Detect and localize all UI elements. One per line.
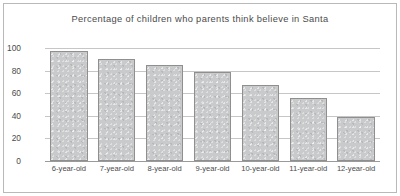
bar-series bbox=[45, 48, 380, 161]
bar-slot bbox=[284, 48, 332, 161]
y-tick-label-40: 40 bbox=[0, 111, 21, 121]
x-tick-label-8-year-old: 8-year-old bbox=[141, 164, 189, 173]
gridline-0 bbox=[45, 161, 380, 162]
y-tick-label-20: 20 bbox=[0, 133, 21, 143]
bar-slot bbox=[45, 48, 93, 161]
chart-figure: Percentage of children who parents think… bbox=[0, 0, 400, 196]
y-tick-label-100: 100 bbox=[0, 43, 21, 53]
x-tick-label-7-year-old: 7-year-old bbox=[93, 164, 141, 173]
bar-6-year-old bbox=[50, 51, 87, 161]
bar-slot bbox=[332, 48, 380, 161]
x-tick-label-10-year-old: 10-year-old bbox=[236, 164, 284, 173]
x-tick-label-12-year-old: 12-year-old bbox=[332, 164, 380, 173]
chart-title: Percentage of children who parents think… bbox=[0, 14, 400, 24]
bar-10-year-old bbox=[242, 85, 279, 161]
x-tick-label-11-year-old: 11-year-old bbox=[284, 164, 332, 173]
bar-11-year-old bbox=[290, 98, 327, 161]
plot-area: 020406080100 bbox=[45, 48, 380, 161]
bar-12-year-old bbox=[337, 117, 374, 161]
x-tick-label-9-year-old: 9-year-old bbox=[189, 164, 237, 173]
bar-7-year-old bbox=[98, 59, 135, 161]
bar-8-year-old bbox=[146, 65, 183, 161]
y-tick-label-80: 80 bbox=[0, 66, 21, 76]
bar-slot bbox=[141, 48, 189, 161]
x-tick-label-6-year-old: 6-year-old bbox=[45, 164, 93, 173]
bar-9-year-old bbox=[194, 72, 231, 161]
y-tick-label-0: 0 bbox=[0, 156, 21, 166]
x-axis-tick-labels: 6-year-old7-year-old8-year-old9-year-old… bbox=[45, 164, 380, 173]
y-tick-label-60: 60 bbox=[0, 88, 21, 98]
bar-slot bbox=[93, 48, 141, 161]
bar-slot bbox=[189, 48, 237, 161]
bar-slot bbox=[236, 48, 284, 161]
